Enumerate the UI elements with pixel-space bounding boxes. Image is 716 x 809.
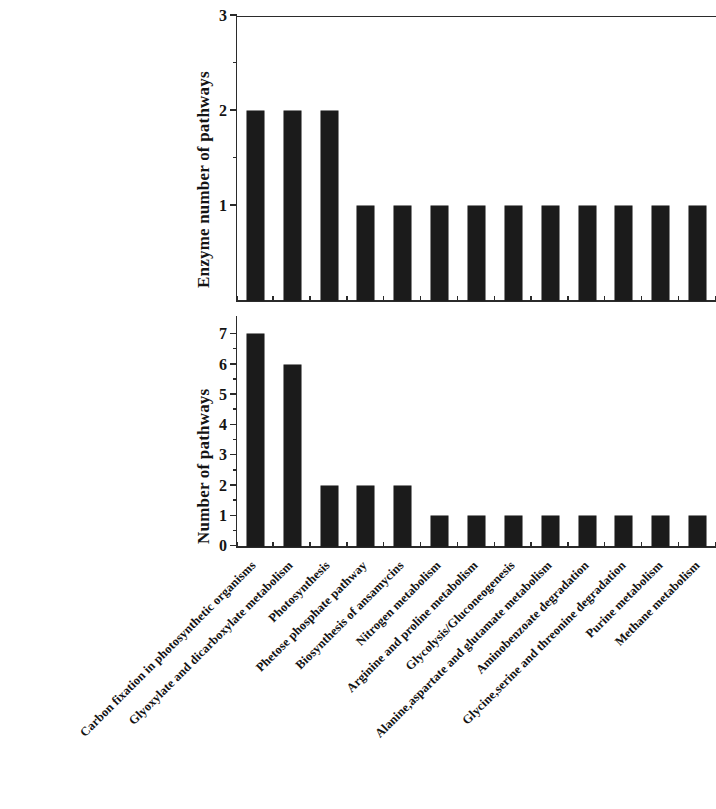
- x-tick: [605, 296, 642, 302]
- bar: [357, 206, 374, 300]
- bar: [468, 206, 485, 300]
- y-tick-minor: [233, 157, 237, 159]
- y-tick: [230, 545, 237, 547]
- bar: [505, 206, 522, 300]
- bar: [542, 206, 559, 300]
- bar-slot: [274, 17, 311, 300]
- bar: [357, 486, 374, 547]
- bar-slot: [458, 17, 495, 300]
- y-tick-minor: [233, 439, 237, 441]
- chart-panel-bottom: 01234567: [236, 316, 716, 548]
- x-axis-ticks-top: [237, 296, 716, 302]
- x-tick: [458, 542, 495, 548]
- y-tick: [230, 109, 237, 111]
- bar-slot: [348, 17, 385, 300]
- x-tick: [642, 542, 679, 548]
- x-tick: [311, 542, 348, 548]
- bar-slot: [495, 316, 532, 546]
- x-tick: [495, 542, 532, 548]
- y-tick-label: 5: [219, 387, 227, 403]
- x-tick: [384, 542, 421, 548]
- bar-slot: [421, 316, 458, 546]
- y-tick-label: 2: [219, 103, 227, 119]
- x-tick: [274, 296, 311, 302]
- y-tick-label: 1: [219, 508, 227, 524]
- x-tick: [384, 296, 421, 302]
- y-tick: [230, 515, 237, 517]
- bar: [431, 206, 448, 300]
- x-tick: [348, 542, 385, 548]
- bar-slot: [642, 316, 679, 546]
- y-tick-label: 1: [219, 198, 227, 214]
- chart-panel-top: 123: [236, 16, 716, 302]
- y-tick-minor: [233, 62, 237, 64]
- bar-slot: [605, 17, 642, 300]
- y-tick-label: 2: [219, 478, 227, 494]
- bar-slot: [679, 17, 716, 300]
- x-tick: [569, 542, 606, 548]
- bar: [394, 206, 411, 300]
- bar-chart-figure: Enzyme number of pathways Number of path…: [0, 0, 716, 809]
- y-tick-minor: [233, 378, 237, 380]
- y-tick: [230, 204, 237, 206]
- bar-slot: [311, 17, 348, 300]
- bar-slot: [237, 316, 274, 546]
- bar: [247, 111, 264, 300]
- y-tick-label: 6: [219, 357, 227, 373]
- x-tick: [532, 542, 569, 548]
- bar: [689, 206, 706, 300]
- y-axis-title-bottom: Number of pathways: [194, 389, 214, 544]
- y-tick-minor: [233, 530, 237, 532]
- x-tick: [237, 542, 274, 548]
- x-tick: [311, 296, 348, 302]
- y-tick: [230, 333, 237, 335]
- bar-slot: [569, 316, 606, 546]
- bar: [579, 206, 596, 300]
- y-tick: [230, 484, 237, 486]
- x-tick: [679, 542, 716, 548]
- x-tick: [679, 296, 716, 302]
- y-tick: [230, 393, 237, 395]
- bar-slot: [532, 17, 569, 300]
- bar-slot: [495, 17, 532, 300]
- y-tick-minor: [233, 348, 237, 350]
- bar-slot: [274, 316, 311, 546]
- y-tick-label: 3: [219, 447, 227, 463]
- bar: [321, 486, 338, 547]
- bar-slot: [458, 316, 495, 546]
- y-tick-minor: [233, 499, 237, 501]
- bar-slot: [642, 17, 679, 300]
- bar-slot: [348, 316, 385, 546]
- bar: [321, 111, 338, 300]
- x-tick: [348, 296, 385, 302]
- bar: [284, 111, 301, 300]
- bar-slot: [605, 316, 642, 546]
- y-tick-minor: [233, 408, 237, 410]
- bar: [615, 206, 632, 300]
- x-axis-category-labels: Carbon fixation in photosynthetic organi…: [236, 552, 716, 809]
- bar-slot: [384, 17, 421, 300]
- y-tick-minor: [233, 469, 237, 471]
- x-axis-ticks-bottom: [237, 542, 716, 548]
- bar: [247, 334, 264, 546]
- bar-slot: [569, 17, 606, 300]
- y-tick-label: 3: [219, 8, 227, 24]
- x-tick: [421, 296, 458, 302]
- y-tick: [230, 454, 237, 456]
- x-tick: [569, 296, 606, 302]
- y-tick-label: 0: [219, 538, 227, 554]
- y-tick: [230, 363, 237, 365]
- bar-slot: [237, 17, 274, 300]
- bar-slot: [421, 17, 458, 300]
- x-tick: [605, 542, 642, 548]
- y-axis-title-top: Enzyme number of pathways: [194, 71, 214, 288]
- bar: [394, 486, 411, 547]
- plot-area-bottom: [237, 316, 716, 546]
- x-tick: [274, 542, 311, 548]
- x-tick: [458, 296, 495, 302]
- bar: [652, 206, 669, 300]
- y-tick-label: 4: [219, 417, 227, 433]
- y-tick: [230, 424, 237, 426]
- y-tick: [230, 14, 237, 16]
- bar-slot: [532, 316, 569, 546]
